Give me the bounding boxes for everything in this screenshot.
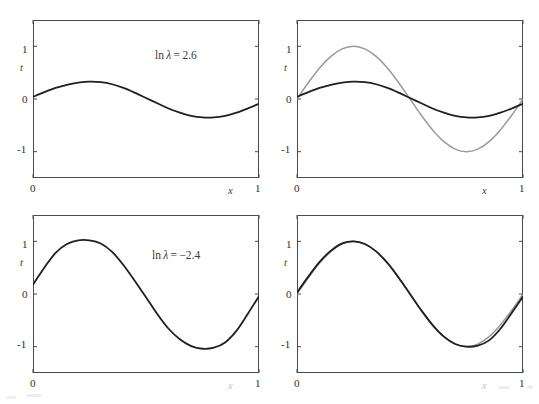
- y-tick-0-bottom-left: 0: [22, 289, 28, 300]
- x-axis-label-bottom-left: x: [228, 381, 233, 392]
- y-tick-1-bottom-left: 1: [22, 239, 28, 250]
- x-tick-0-top-left: 0: [30, 183, 36, 194]
- plot-curves-top-left: [0, 0, 270, 202]
- y-axis-label-top-right: t: [284, 63, 287, 74]
- scan-artifact: [6, 396, 16, 399]
- y-axis-label-bottom-left: t: [20, 258, 23, 269]
- x-tick-1-top-right: 1: [519, 183, 525, 194]
- x-axis-label-bottom-right: x: [482, 381, 487, 392]
- x-axis-label-top-left: x: [228, 186, 233, 197]
- x-tick-1-bottom-left: 1: [255, 378, 261, 389]
- panel-top-right: t x 1 0 -1 0 1: [270, 0, 539, 202]
- y-tick-1-top-left: 1: [22, 44, 28, 55]
- y-axis-label-bottom-right: t: [284, 258, 287, 269]
- scan-artifact: [527, 385, 533, 389]
- y-tick-1-bottom-right: 1: [286, 239, 292, 250]
- x-axis-label-top-right: x: [482, 186, 487, 197]
- scan-artifact: [26, 394, 42, 397]
- x-tick-0-bottom-left: 0: [30, 378, 36, 389]
- y-tick-0-top-left: 0: [22, 94, 28, 105]
- plot-curves-bottom-right: [270, 202, 539, 404]
- annotation-value-top-left: 2.6: [182, 49, 196, 61]
- annotation-value-bottom-left: −2.4: [179, 249, 200, 261]
- annotation-lambda-top-left: ln λ = 2.6: [155, 50, 197, 62]
- plot-curves-top-right: [270, 0, 539, 202]
- bias-variance-figure: t x 1 0 -1 0 1 ln λ = 2.6 t x 1 0 -1 0 1…: [0, 0, 539, 404]
- x-tick-0-top-right: 0: [294, 183, 300, 194]
- scan-artifact: [498, 386, 510, 389]
- x-tick-1-bottom-right: 1: [519, 378, 525, 389]
- y-tick-neg1-bottom-left: -1: [17, 339, 26, 350]
- x-tick-1-top-left: 1: [255, 183, 261, 194]
- y-tick-0-bottom-right: 0: [286, 289, 292, 300]
- panel-top-left: t x 1 0 -1 0 1 ln λ = 2.6: [0, 0, 270, 202]
- y-tick-0-top-right: 0: [286, 94, 292, 105]
- y-tick-1-top-right: 1: [286, 44, 292, 55]
- annotation-lambda-bottom-left: ln λ = −2.4: [152, 250, 200, 262]
- annotation-ln-top-left: ln: [155, 49, 164, 61]
- panel-bottom-left: t x 1 0 -1 0 1 ln λ = −2.4: [0, 202, 270, 404]
- y-tick-neg1-top-right: -1: [281, 144, 290, 155]
- panel-bottom-right: t x 1 0 -1 0 1: [270, 202, 539, 404]
- annotation-ln-bottom-left: ln: [152, 249, 161, 261]
- y-tick-neg1-bottom-right: -1: [281, 339, 290, 350]
- x-tick-0-bottom-right: 0: [294, 378, 300, 389]
- y-axis-label-top-left: t: [20, 63, 23, 74]
- plot-curves-bottom-left: [0, 202, 270, 404]
- y-tick-neg1-top-left: -1: [17, 144, 26, 155]
